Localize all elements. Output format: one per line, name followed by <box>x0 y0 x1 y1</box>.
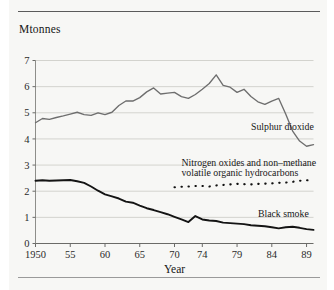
gridlines-group <box>36 61 314 218</box>
x-tick-label: 84 <box>267 249 278 260</box>
y-tick-labels-group: 01234567 <box>24 55 30 249</box>
y-tick-label: 5 <box>24 107 29 118</box>
y-tick-label: 7 <box>24 55 29 66</box>
x-axis-title: Year <box>164 263 185 275</box>
x-tick-label: 1950 <box>25 249 46 260</box>
y-tick-label: 2 <box>24 186 29 197</box>
series-label: Sulphur dioxide <box>251 121 315 132</box>
chart-figure: Mtonnes 01234567 19505560657074798489 Su… <box>0 0 334 290</box>
x-tick-label: 89 <box>301 249 312 260</box>
series-label: Nitrogen oxides and non–methanevolatile … <box>181 157 316 178</box>
y-tick-label: 6 <box>24 81 29 92</box>
x-tick-label: 70 <box>169 249 180 260</box>
x-tick-label: 60 <box>100 249 111 260</box>
y-tick-label: 4 <box>24 134 30 145</box>
x-tick-label: 79 <box>232 249 243 260</box>
x-tick-label: 74 <box>197 249 208 260</box>
x-tick-label: 55 <box>65 249 76 260</box>
y-tick-label: 3 <box>24 160 29 171</box>
series-line-sulphur-dioxide <box>36 75 314 146</box>
x-tick-labels-group: 19505560657074798489 <box>25 249 312 260</box>
x-tick-label: 65 <box>135 249 146 260</box>
plot-area: 01234567 19505560657074798489 Sulphur di… <box>0 0 334 290</box>
y-tick-label: 0 <box>24 238 29 249</box>
series-label: Black smoke <box>258 208 310 219</box>
axes-group <box>33 61 314 248</box>
series-group <box>36 75 314 230</box>
y-tick-label: 1 <box>24 212 29 223</box>
series-line-nitrogen-oxides <box>175 180 314 187</box>
